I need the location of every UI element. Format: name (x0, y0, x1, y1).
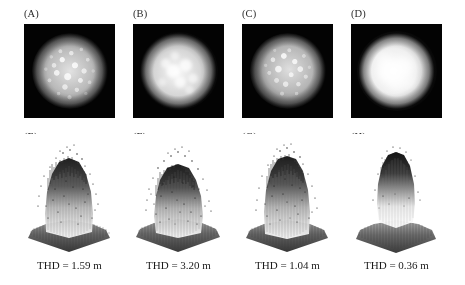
blob-vignette-b (133, 24, 224, 118)
caption-g: THD = 1.04 m (240, 259, 335, 272)
surface-panel-g (240, 134, 335, 256)
blob-stack-b (133, 24, 224, 118)
caption-e: THD = 1.59 m (22, 259, 117, 272)
image-panel-a (24, 24, 115, 118)
panel-label-a: (A) (24, 8, 39, 19)
surface-panel-e (22, 134, 117, 256)
surface-mesh-f (131, 134, 226, 256)
blob-vignette-a (24, 24, 115, 118)
blob-vignette-c (242, 24, 333, 118)
panel-label-c: (C) (242, 8, 256, 19)
blob-stack-c (242, 24, 333, 118)
image-panel-b (133, 24, 224, 118)
blob-stack-a (24, 24, 115, 118)
blob-stack-d (351, 24, 442, 118)
panel-label-b: (B) (133, 8, 147, 19)
surface-mesh-h (349, 134, 444, 256)
caption-f: THD = 3.20 m (131, 259, 226, 272)
surface-panel-f (131, 134, 226, 256)
surface-mesh-e (22, 134, 117, 256)
image-panel-d (351, 24, 442, 118)
caption-h: THD = 0.36 m (349, 259, 444, 272)
blob-vignette-d (351, 24, 442, 118)
figure-canvas: (A) (B) (C) (D) (E) (0, 0, 465, 285)
image-panel-c (242, 24, 333, 118)
surface-panel-h (349, 134, 444, 256)
surface-mesh-g (240, 134, 335, 256)
panel-label-d: (D) (351, 8, 366, 19)
